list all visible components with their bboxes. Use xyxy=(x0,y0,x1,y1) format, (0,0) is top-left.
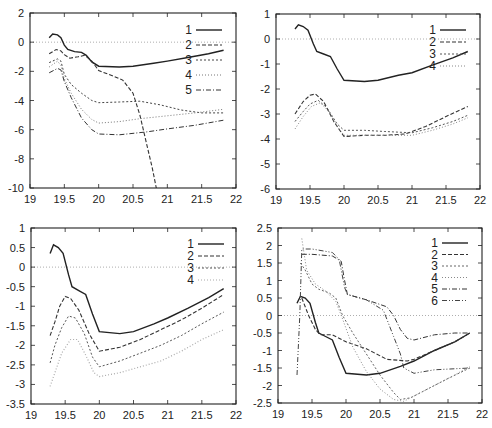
y-tick-label: -2 xyxy=(260,83,270,95)
y-tick-label: -2.5 xyxy=(253,397,272,409)
y-tick-label: -8 xyxy=(14,153,24,165)
y-tick-label: -10 xyxy=(8,182,24,194)
series-line-3 xyxy=(300,263,469,400)
y-tick-label: -0.5 xyxy=(253,327,272,339)
x-tick-label: 21 xyxy=(406,194,418,206)
x-tick-label: 19.5 xyxy=(301,408,322,420)
series-line-2 xyxy=(302,298,470,361)
x-tick-label: 20.5 xyxy=(123,409,144,421)
x-tick-label: 21.5 xyxy=(191,193,212,205)
y-tick-label: 0.5 xyxy=(10,242,25,254)
legend-label: 4 xyxy=(185,68,192,82)
legend-label: 1 xyxy=(185,23,192,37)
x-tick-label: 21 xyxy=(162,409,174,421)
x-tick-label: 20.5 xyxy=(122,193,143,205)
x-tick-label: 20.5 xyxy=(367,194,388,206)
x-tick-label: 22 xyxy=(230,193,242,205)
x-tick-label: 19 xyxy=(25,409,37,421)
plot-frame xyxy=(31,228,236,404)
y-tick-label: 1.5 xyxy=(257,257,272,269)
x-tick-label: 19 xyxy=(272,408,284,420)
x-tick-label: 20 xyxy=(338,194,350,206)
series-line-5 xyxy=(49,68,223,134)
legend-label: 6 xyxy=(431,294,438,308)
series-line-4 xyxy=(302,239,470,402)
y-tick-label: -3 xyxy=(260,108,270,120)
x-tick-label: 19 xyxy=(270,194,282,206)
y-tick-label: -3.5 xyxy=(6,398,25,410)
x-tick-label: 21.5 xyxy=(191,409,212,421)
y-tick-label: -6 xyxy=(14,124,24,136)
legend-label: 2 xyxy=(185,38,192,52)
y-tick-label: -4 xyxy=(14,95,24,107)
y-tick-label: -2 xyxy=(15,339,25,351)
legend-label: 4 xyxy=(187,273,194,287)
chart-top-left: 123451919.52020.52121.52220-2-4-6-8-10 xyxy=(8,7,242,205)
y-tick-label: -6 xyxy=(260,183,270,195)
y-tick-label: -5 xyxy=(260,158,270,170)
series-line-1 xyxy=(297,296,470,375)
y-tick-label: 0 xyxy=(264,33,270,45)
x-tick-label: 20 xyxy=(340,408,352,420)
series-line-2 xyxy=(295,94,468,137)
y-tick-label: 1 xyxy=(266,275,272,287)
y-tick-label: -3 xyxy=(15,378,25,390)
x-tick-label: 19.5 xyxy=(54,409,75,421)
chart-top-right: 12341919.52020.52121.52210-1-2-3-4-5-6 xyxy=(260,8,486,206)
plot-frame xyxy=(276,14,480,189)
y-tick-label: -1 xyxy=(260,58,270,70)
series-line-1 xyxy=(295,25,468,82)
y-tick-label: 2 xyxy=(266,240,272,252)
x-tick-label: 19.5 xyxy=(299,194,320,206)
x-tick-label: 19 xyxy=(24,193,36,205)
y-tick-label: -1.5 xyxy=(6,320,25,332)
y-tick-label: -2.5 xyxy=(6,359,25,371)
x-tick-label: 22 xyxy=(474,194,486,206)
x-tick-label: 22 xyxy=(230,409,242,421)
x-tick-label: 21.5 xyxy=(435,194,456,206)
y-tick-label: -1 xyxy=(262,345,272,357)
y-tick-label: 0.5 xyxy=(257,292,272,304)
series-line-2 xyxy=(49,50,156,189)
y-tick-label: 0 xyxy=(266,310,272,322)
y-tick-label: 2.5 xyxy=(257,222,272,234)
x-tick-label: 21.5 xyxy=(437,408,458,420)
series-line-3 xyxy=(295,100,468,133)
legend-label: 5 xyxy=(185,83,192,97)
y-tick-label: -0.5 xyxy=(6,281,25,293)
y-tick-label: 1 xyxy=(19,222,25,234)
series-line-1 xyxy=(49,34,223,67)
x-tick-label: 22 xyxy=(476,408,488,420)
x-tick-label: 20 xyxy=(93,193,105,205)
y-tick-label: -1.5 xyxy=(253,362,272,374)
series-line-4 xyxy=(49,61,223,123)
y-tick-label: -1 xyxy=(15,300,25,312)
legend-label: 3 xyxy=(185,53,192,67)
series-line-5 xyxy=(302,254,470,340)
series-line-6 xyxy=(297,249,470,375)
chart-bottom-left: 12341919.52020.52121.52210.50-0.5-1-1.5-… xyxy=(6,222,242,421)
x-tick-label: 19.5 xyxy=(54,193,75,205)
y-tick-label: -4 xyxy=(260,133,270,145)
y-tick-label: 0 xyxy=(19,261,25,273)
y-tick-label: -2 xyxy=(14,65,24,77)
y-tick-label: 0 xyxy=(18,36,24,48)
figure-canvas: 123451919.52020.52121.52220-2-4-6-8-10 1… xyxy=(0,0,492,428)
series-line-4 xyxy=(50,330,224,387)
y-tick-label: 2 xyxy=(18,7,24,19)
x-tick-label: 20 xyxy=(93,409,105,421)
x-tick-label: 21 xyxy=(161,193,173,205)
x-tick-label: 20.5 xyxy=(369,408,390,420)
x-tick-label: 21 xyxy=(408,408,420,420)
y-tick-label: -2 xyxy=(262,380,272,392)
y-tick-label: 1 xyxy=(264,8,270,20)
legend-label: 4 xyxy=(429,59,436,73)
chart-bottom-right: 1234561919.52020.52121.5222.521.510.50-0… xyxy=(253,222,488,420)
